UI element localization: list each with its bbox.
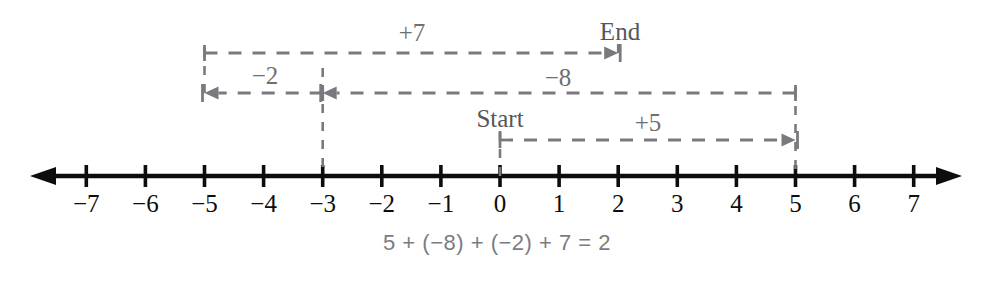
step-arrowhead-icon	[604, 47, 618, 60]
anchor-label-start: Start	[476, 106, 523, 131]
axis-tick-label: 4	[730, 191, 743, 216]
axis-tick-label: 0	[494, 191, 507, 216]
equation-text: 5 + (−8) + (−2) + 7 = 2	[383, 232, 611, 254]
axis-tick-label: −4	[250, 191, 277, 216]
axis-tick-label: 5	[789, 191, 802, 216]
axis-tick-label: 3	[671, 191, 684, 216]
axis-tick-label: −5	[191, 191, 218, 216]
step-label-plus-five: +5	[635, 110, 662, 135]
step-arrowhead-icon	[323, 87, 337, 100]
axis-tick-label: −1	[428, 191, 455, 216]
step-label-plus-seven: +7	[399, 20, 426, 45]
axis-tick-label: 7	[907, 191, 920, 216]
step-arrowhead-icon	[782, 134, 796, 147]
number-line-axis	[30, 165, 962, 187]
number-line-diagram: −7−6−5−4−3−2−101234567+5−8−2+7StartEnd 5…	[0, 0, 988, 281]
axis-arrow-right-icon	[936, 167, 962, 185]
axis-tick-label: −3	[309, 191, 336, 216]
axis-tick-label: −6	[132, 191, 159, 216]
step-arrowhead-icon	[205, 87, 219, 100]
axis-arrow-left-icon	[30, 167, 56, 185]
step-label-minus-eight: −8	[545, 65, 572, 90]
anchor-label-end: End	[600, 19, 640, 44]
axis-tick-label: 2	[612, 191, 625, 216]
axis-tick-label: 6	[848, 191, 861, 216]
step-label-minus-two: −2	[252, 63, 279, 88]
axis-tick-label: −7	[73, 191, 100, 216]
axis-tick-label: 1	[553, 191, 566, 216]
step-arrows	[203, 44, 798, 149]
axis-tick-label: −2	[368, 191, 395, 216]
step-arrow-plus-seven	[205, 44, 621, 62]
